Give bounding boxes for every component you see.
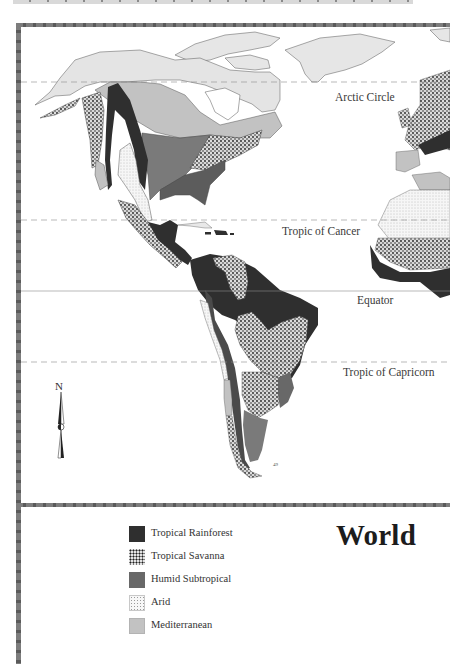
- map-title: World: [336, 519, 416, 552]
- legend-label: Arid: [151, 596, 170, 607]
- legend-label: Mediterranean: [151, 619, 212, 630]
- savanna-west-coast: [82, 92, 104, 168]
- mediterranean-swatch: [129, 618, 145, 634]
- map-legend-divider: [16, 503, 450, 507]
- arid-sahara: [378, 190, 450, 240]
- top-page-strip: [13, 0, 413, 4]
- caribbean-islands: [205, 230, 234, 235]
- arid-swatch: [129, 595, 145, 611]
- tropical-rainforest-swatch: [129, 526, 145, 542]
- arctic-circle-label: Arctic Circle: [335, 91, 395, 103]
- tropic-of-cancer-label: Tropic of Cancer: [282, 225, 360, 237]
- legend-item-tropical-savanna: Tropical Savanna: [129, 549, 289, 567]
- humid-subtropical-patagonia: [243, 410, 268, 462]
- legend-item-humid-subtropical: Humid Subtropical: [129, 572, 289, 590]
- british-isles: [398, 108, 412, 128]
- equator-label: Equator: [357, 294, 393, 306]
- legend-item-tropical-rainforest: Tropical Rainforest: [129, 526, 289, 544]
- north-arrow: N: [52, 380, 72, 460]
- tropical-savanna-swatch: [129, 549, 145, 565]
- legend-label: Humid Subtropical: [151, 573, 231, 584]
- legend-label: Tropical Savanna: [151, 550, 224, 561]
- legend-label: Tropical Rainforest: [151, 527, 233, 538]
- compass-needle-icon: [52, 392, 72, 472]
- humid-subtropical-swatch: [129, 572, 145, 588]
- savanna-gran-chaco: [242, 372, 282, 418]
- legend-item-arid: Arid: [129, 595, 289, 613]
- mediterranean-iberia: [396, 150, 420, 172]
- mediterranean-north-africa: [412, 172, 450, 190]
- north-label: N: [55, 380, 63, 392]
- falklands-mark: 49: [273, 462, 279, 467]
- tropic-of-capricorn-label: Tropic of Capricorn: [343, 366, 435, 378]
- legend-item-mediterranean: Mediterranean: [129, 618, 289, 636]
